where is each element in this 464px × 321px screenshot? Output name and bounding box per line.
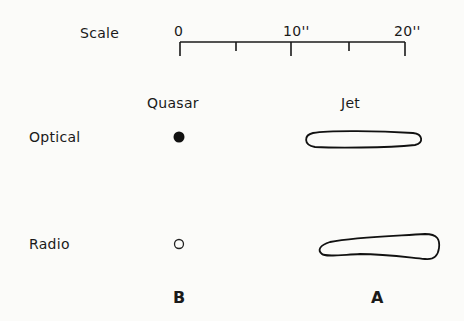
footer-letter-a: A [371, 290, 384, 306]
scale-tick-0: 0 [174, 24, 183, 38]
footer-letter-b: B [173, 290, 186, 306]
scale-tick-20: 20'' [394, 24, 421, 38]
radio-quasar-circle [175, 240, 184, 249]
column-header-quasar: Quasar [147, 96, 199, 110]
row-label-optical: Optical [29, 130, 81, 144]
radio-jet-contour [320, 234, 440, 259]
row-label-radio: Radio [29, 237, 70, 251]
scale-tick-10: 10'' [283, 24, 310, 38]
diagram-canvas [0, 0, 464, 321]
scale-title: Scale [80, 26, 119, 40]
column-header-jet: Jet [341, 96, 360, 110]
optical-jet-contour [306, 131, 421, 147]
scale-bar [180, 42, 405, 56]
optical-quasar-dot [174, 132, 185, 143]
